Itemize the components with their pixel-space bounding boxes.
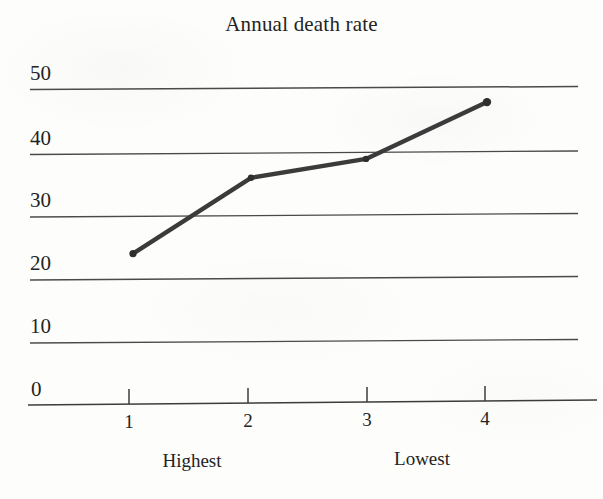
x-tick-label-3: 3 <box>347 410 387 429</box>
data-series-annual-death-rate <box>129 98 491 257</box>
x-axis-line <box>28 400 597 405</box>
gridline-50 <box>30 87 578 90</box>
x-tick-label-1: 1 <box>109 412 149 431</box>
chart-figure: Annual death rate 50 40 <box>0 0 603 499</box>
y-tick-label-20: 20 <box>30 253 51 274</box>
data-point-1 <box>129 250 136 257</box>
x-tick-label-4: 4 <box>465 409 505 428</box>
gridline-10 <box>30 340 578 344</box>
y-tick-label-40: 40 <box>30 128 51 149</box>
x-axis-caption-lowest: Lowest <box>372 449 472 468</box>
x-tick-label-2: 2 <box>228 411 268 430</box>
gridlines <box>30 87 578 344</box>
y-tick-label-0: 0 <box>31 379 42 400</box>
gridline-20 <box>30 277 578 281</box>
y-tick-label-30: 30 <box>30 190 51 211</box>
y-tick-label-10: 10 <box>30 316 51 337</box>
data-point-4 <box>483 98 491 106</box>
plot-area <box>0 0 603 499</box>
data-point-2 <box>248 175 254 181</box>
gridline-30 <box>30 214 578 218</box>
x-axis-caption-highest: Highest <box>142 451 242 470</box>
data-line <box>133 102 487 254</box>
gridline-40 <box>30 151 578 155</box>
y-tick-label-50: 50 <box>30 63 51 84</box>
data-point-3 <box>363 156 369 162</box>
